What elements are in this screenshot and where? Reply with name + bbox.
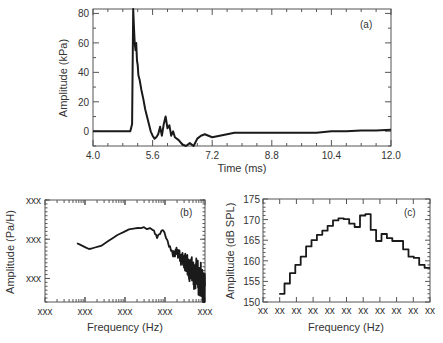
panel-a-xtick-label: 5.6 — [146, 150, 160, 161]
panel-c-xtick-label: xx — [358, 305, 368, 316]
panel-c-xtick-label: xx — [392, 305, 402, 316]
panel-b-xtick-label: xxx — [118, 306, 133, 317]
panel-c-xtick-label: xx — [325, 305, 335, 316]
panel-b-xtick-label: xxx — [158, 306, 173, 317]
panel-c-xtick-label: xx — [408, 305, 418, 316]
panel-b-ytick-label: xxx — [26, 273, 41, 284]
panel-a-ytick-label: 0 — [83, 126, 89, 137]
panel-c-xtick-label: xx — [425, 305, 435, 316]
panel-c: xxxxxxxxxxxxxxxxxxxxxx 15015516016517017… — [224, 194, 435, 333]
panel-b-xtick-label: xxx — [198, 306, 213, 317]
panel-c-ytick-label: 160 — [243, 256, 260, 267]
panel-c-xtick-label: xx — [275, 305, 285, 316]
figure: 4.05.67.28.810.412.0 020406080 (a) Time … — [0, 0, 443, 343]
panel-b-xtick-label: xxx — [78, 306, 93, 317]
panel-c-ytick-label: 150 — [243, 297, 260, 308]
panel-c-ytick-label: 175 — [243, 194, 260, 205]
panel-c-step-line — [279, 214, 430, 294]
panel-a-xtick-label: 4.0 — [86, 150, 100, 161]
panel-b-ytick-label: xxx — [26, 234, 41, 245]
panel-a-ylabel: Amplitude (kPa) — [57, 39, 69, 117]
panel-c-xtick-label: xx — [342, 305, 352, 316]
panel-b-spectrum-line — [77, 227, 205, 302]
panel-a-waveform-line — [93, 9, 391, 146]
panel-b-ytick-label: xxx — [26, 195, 41, 206]
panel-c-xtick-label: xx — [291, 305, 301, 316]
panel-a-ytick-label: 80 — [78, 8, 90, 19]
panel-a: 4.05.67.28.810.412.0 020406080 (a) Time … — [57, 8, 401, 174]
panel-c-ytick-label: 155 — [243, 276, 260, 287]
panel-c-ylabel: Amplitude (dB SPL) — [224, 203, 236, 300]
panel-c-xlabel: Frequency (Hz) — [308, 321, 384, 333]
panel-c-label: (c) — [404, 207, 416, 218]
panel-a-ytick-label: 20 — [78, 97, 90, 108]
panel-b-ytick-labels: xxxxxxxxx — [26, 195, 41, 284]
panel-c-xtick-labels: xxxxxxxxxxxxxxxxxxxxxx — [258, 305, 435, 316]
panel-c-xtick-label: xx — [375, 305, 385, 316]
panel-b-ylabel: Amplitude (Pa/H) — [4, 210, 16, 294]
panel-a-frame — [93, 9, 391, 146]
panel-a-ytick-labels: 020406080 — [78, 8, 90, 137]
panel-a-ytick-label: 60 — [78, 38, 90, 49]
panel-c-ytick-label: 170 — [243, 215, 260, 226]
panel-a-xtick-labels: 4.05.67.28.810.412.0 — [86, 150, 401, 161]
panel-c-ytick-label: 165 — [243, 235, 260, 246]
panel-a-xtick-label: 7.2 — [205, 150, 219, 161]
panel-b-label: (b) — [180, 207, 192, 218]
panel-c-ytick-labels: 150155160165170175 — [243, 194, 260, 308]
panel-a-xlabel: Time (ms) — [217, 162, 266, 174]
panel-b-xlabel: Frequency (Hz) — [87, 321, 163, 333]
panel-a-xtick-label: 10.4 — [322, 150, 342, 161]
panel-a-ticks — [93, 9, 391, 146]
panel-a-label: (a) — [360, 19, 372, 30]
panel-b-xtick-labels: xxxxxxxxxxxxxxx — [38, 306, 213, 317]
panel-b-xtick-label: xxx — [38, 306, 53, 317]
panel-a-xtick-label: 12.0 — [381, 150, 401, 161]
panel-c-xtick-label: xx — [308, 305, 318, 316]
panel-a-ytick-label: 40 — [78, 67, 90, 78]
panel-b: xxxxxxxxxxxxxxx xxxxxxxxx (b) Frequency … — [4, 195, 213, 333]
panel-a-xtick-label: 8.8 — [265, 150, 279, 161]
